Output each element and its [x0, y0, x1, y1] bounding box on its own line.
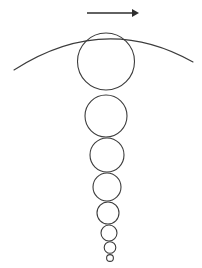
- circle-5: [97, 202, 119, 224]
- surface-arc: [14, 39, 193, 70]
- arrow-head-icon: [132, 9, 139, 17]
- circle-7: [104, 242, 116, 254]
- figure-svg: [0, 0, 202, 268]
- surface-arc: [14, 39, 193, 70]
- circle-6: [101, 225, 117, 241]
- circle-1: [78, 33, 135, 90]
- circle-4: [93, 173, 121, 201]
- circle-3: [90, 138, 124, 172]
- circle-8: [107, 255, 114, 262]
- circle-2: [85, 95, 127, 137]
- figure-canvas: [0, 0, 202, 268]
- direction-arrow-icon: [87, 9, 139, 17]
- circle-chain: [78, 33, 135, 261]
